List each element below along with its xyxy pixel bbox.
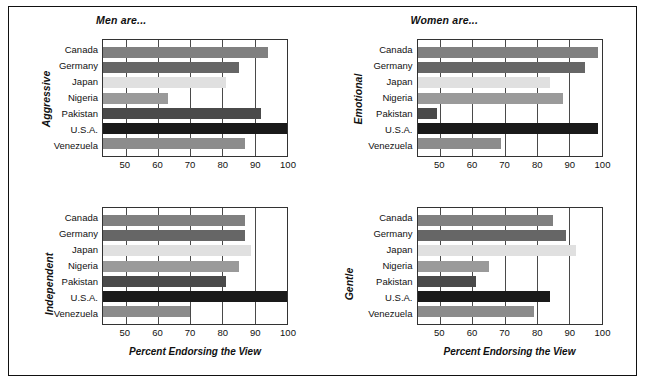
x-tick-label: 100: [280, 159, 296, 170]
x-tick-label: 80: [532, 159, 543, 170]
bar: [418, 138, 502, 149]
x-tick-label: 90: [565, 159, 576, 170]
x-tick-label: 70: [499, 327, 510, 338]
bar-row: [103, 45, 287, 60]
bar: [103, 93, 168, 104]
bar-row: [103, 274, 287, 289]
x-axis-ticks-aggressive: 5060708090100: [102, 159, 288, 173]
category-label: Nigeria: [30, 258, 102, 274]
category-label: Germany: [345, 58, 417, 74]
panel-aggressive: Men are... Aggressive CanadaGermanyJapan…: [8, 6, 323, 191]
category-label: Venezuela: [30, 138, 102, 154]
x-tick-label: 50: [434, 327, 445, 338]
category-label: Venezuela: [345, 138, 417, 154]
plot-area-aggressive: [102, 39, 288, 157]
bar-row: [103, 258, 287, 273]
x-tick-label: 60: [467, 327, 478, 338]
bar: [103, 108, 261, 119]
panel-independent: Independent CanadaGermanyJapanNigeriaPak…: [8, 191, 323, 376]
category-label: U.S.A.: [345, 122, 417, 138]
category-label: Canada: [345, 210, 417, 226]
bar-row: [103, 136, 287, 151]
bar: [418, 261, 489, 272]
bar: [103, 276, 226, 287]
x-tick-label: 50: [434, 159, 445, 170]
category-label: Venezuela: [30, 306, 102, 322]
category-label: U.S.A.: [30, 122, 102, 138]
bars-emotional: [418, 40, 602, 156]
x-tick-label: 90: [565, 327, 576, 338]
x-tick-label: 80: [217, 159, 228, 170]
category-label: Nigeria: [30, 90, 102, 106]
x-tick-label: 50: [120, 159, 131, 170]
bars-gentle: [418, 208, 602, 324]
bar: [418, 245, 576, 256]
category-label: Japan: [345, 242, 417, 258]
category-label: Germany: [345, 226, 417, 242]
category-label: Canada: [345, 42, 417, 58]
bar-row: [103, 304, 287, 319]
x-axis-ticks-emotional: 5060708090100: [417, 159, 603, 173]
x-axis-ticks-gentle: 5060708090100: [417, 327, 603, 341]
bar: [418, 123, 599, 134]
bar-row: [418, 136, 602, 151]
bar: [103, 245, 251, 256]
category-labels-aggressive: CanadaGermanyJapanNigeriaPakistanU.S.A.V…: [30, 39, 102, 157]
bar: [103, 261, 239, 272]
x-tick-label: 60: [467, 159, 478, 170]
figure-root: Men are... Aggressive CanadaGermanyJapan…: [0, 0, 645, 383]
x-axis-title-left: Percent Endorsing the View: [102, 346, 288, 357]
bar-row: [418, 228, 602, 243]
bar: [418, 230, 566, 241]
category-label: Pakistan: [30, 274, 102, 290]
bars-aggressive: [103, 40, 287, 156]
category-labels-gentle: CanadaGermanyJapanNigeriaPakistanU.S.A.V…: [345, 207, 417, 325]
bar: [103, 77, 226, 88]
column-title-men: Men are...: [96, 14, 146, 26]
bar: [418, 215, 554, 226]
x-tick-label: 80: [217, 327, 228, 338]
bar: [418, 47, 599, 58]
category-label: Nigeria: [345, 90, 417, 106]
panel-gentle: Gentle CanadaGermanyJapanNigeriaPakistan…: [323, 191, 638, 376]
bar: [103, 138, 245, 149]
bar-row: [103, 90, 287, 105]
bar: [418, 306, 534, 317]
panel-grid: Men are... Aggressive CanadaGermanyJapan…: [8, 6, 637, 376]
bar-row: [103, 228, 287, 243]
category-label: Germany: [30, 226, 102, 242]
bar-row: [418, 121, 602, 136]
bar: [418, 108, 437, 119]
plot-area-independent: [102, 207, 288, 325]
bar-row: [418, 304, 602, 319]
x-axis-title-right: Percent Endorsing the View: [417, 346, 603, 357]
bar: [103, 306, 190, 317]
category-labels-independent: CanadaGermanyJapanNigeriaPakistanU.S.A.V…: [30, 207, 102, 325]
category-labels-emotional: CanadaGermanyJapanNigeriaPakistanU.S.A.V…: [345, 39, 417, 157]
category-label: Canada: [30, 210, 102, 226]
x-tick-label: 80: [532, 327, 543, 338]
bar: [103, 47, 268, 58]
bars-independent: [103, 208, 287, 324]
plot-area-emotional: [417, 39, 603, 157]
x-tick-label: 70: [185, 159, 196, 170]
x-tick-label: 70: [185, 327, 196, 338]
x-tick-label: 60: [152, 159, 163, 170]
x-tick-label: 70: [499, 159, 510, 170]
category-label: Japan: [30, 74, 102, 90]
bar: [103, 230, 245, 241]
bar-row: [418, 106, 602, 121]
bar-row: [418, 213, 602, 228]
category-label: Canada: [30, 42, 102, 58]
bar: [103, 123, 287, 134]
bar-row: [418, 60, 602, 75]
category-label: U.S.A.: [30, 290, 102, 306]
bar-row: [418, 274, 602, 289]
bar: [418, 62, 586, 73]
category-label: Japan: [345, 74, 417, 90]
category-label: Pakistan: [345, 274, 417, 290]
bar: [103, 62, 239, 73]
category-label: Germany: [30, 58, 102, 74]
bar: [418, 291, 550, 302]
bar: [103, 215, 245, 226]
